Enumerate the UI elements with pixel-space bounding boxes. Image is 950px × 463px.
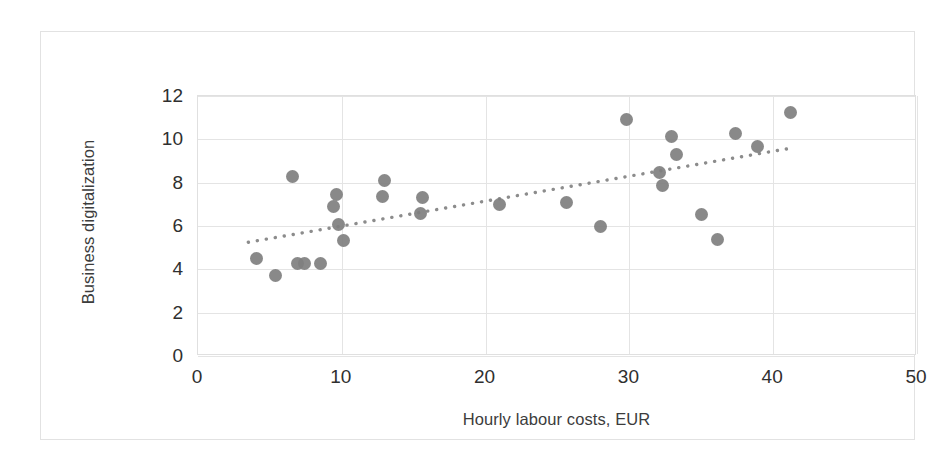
y-tick-label: 8 — [139, 173, 183, 192]
x-tick-label: 10 — [311, 367, 371, 386]
data-point — [620, 113, 633, 126]
x-tick-label: 20 — [455, 367, 515, 386]
chart-frame: 024681012 01020304050 Business digitaliz… — [40, 31, 915, 440]
data-point — [711, 233, 724, 246]
data-point — [665, 130, 678, 143]
y-tick-label: 10 — [139, 129, 183, 148]
data-point — [414, 207, 427, 220]
data-point — [269, 269, 282, 282]
data-point — [594, 220, 607, 233]
x-tick-label: 30 — [598, 367, 658, 386]
x-tick-label: 40 — [742, 367, 802, 386]
data-point — [784, 106, 797, 119]
data-point — [286, 170, 299, 183]
data-point — [751, 140, 764, 153]
data-point — [332, 218, 345, 231]
y-tick-label: 0 — [139, 346, 183, 365]
data-point — [376, 190, 389, 203]
data-point — [378, 174, 391, 187]
x-tick-label: 0 — [167, 367, 227, 386]
plot-area — [197, 95, 916, 355]
data-point — [560, 196, 573, 209]
data-point — [327, 200, 340, 213]
data-point — [493, 198, 506, 211]
x-tick-label: 50 — [886, 367, 946, 386]
gridline-horizontal — [198, 356, 915, 357]
data-point — [653, 166, 666, 179]
gridline-vertical — [917, 96, 918, 354]
data-point — [656, 179, 669, 192]
y-tick-label: 2 — [139, 303, 183, 322]
data-point — [337, 234, 350, 247]
y-tick-label: 4 — [139, 259, 183, 278]
data-point — [416, 191, 429, 204]
y-axis-title: Business digitalization — [79, 72, 101, 372]
data-point — [729, 127, 742, 140]
data-point — [250, 252, 263, 265]
x-axis-title: Hourly labour costs, EUR — [197, 410, 916, 429]
data-point — [314, 257, 327, 270]
scatter-markers — [198, 96, 915, 354]
data-point — [298, 257, 311, 270]
data-point — [670, 148, 683, 161]
y-tick-label: 6 — [139, 216, 183, 235]
data-point — [695, 208, 708, 221]
y-tick-label: 12 — [139, 86, 183, 105]
